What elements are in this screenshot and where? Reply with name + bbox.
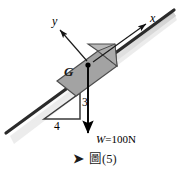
- center-of-gravity-label: G: [64, 64, 74, 79]
- figure-caption: 圖(5): [89, 152, 117, 166]
- weight-unit: N: [128, 133, 136, 145]
- slope-run-label: 4: [54, 120, 60, 132]
- figure-container: 3 4 G x y W=100N ➤ 圖(5): [0, 0, 177, 175]
- x-axis-label: x: [149, 11, 156, 25]
- y-axis-label: y: [51, 14, 58, 28]
- caption-marker-icon: ➤: [73, 151, 84, 166]
- weight-value: 100: [111, 133, 128, 145]
- inclined-plane-diagram: 3 4 G x y W=100N ➤ 圖(5): [0, 0, 177, 175]
- weight-label: W=100N: [96, 133, 136, 145]
